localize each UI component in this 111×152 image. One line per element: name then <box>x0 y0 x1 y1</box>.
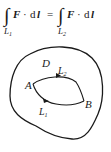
lhs-differential: d <box>30 8 36 20</box>
path-l2 <box>33 77 84 101</box>
lhs-subscript: L1 <box>3 26 12 37</box>
equals-sign: = <box>47 8 53 20</box>
rhs-vector-f: F <box>66 8 75 20</box>
region-label-d: D <box>41 57 50 69</box>
integral-sign-rhs: ∫ <box>56 4 65 28</box>
lhs-vector-f: F <box>12 8 21 20</box>
rhs-differential: d <box>84 8 90 20</box>
path-label-l2: L2 <box>57 65 67 77</box>
integral-sign-lhs: ∫ <box>2 4 11 28</box>
rhs-vector-l: l <box>91 8 95 20</box>
path-label-l1: L1 <box>38 106 48 118</box>
arrow-l1-icon <box>43 99 49 104</box>
path-independence-formula: ∫ L1 F · d l = ∫ L2 F · d l <box>0 0 111 40</box>
rhs-subscript: L2 <box>57 26 66 37</box>
lhs-dot: · <box>23 8 27 20</box>
path-l1 <box>33 84 84 105</box>
region-diagram: D A B L2 L1 <box>0 40 111 152</box>
point-label-a: A <box>24 79 32 91</box>
rhs-dot: · <box>77 8 81 20</box>
lhs-vector-l: l <box>37 8 41 20</box>
point-label-b: B <box>85 98 92 110</box>
region-boundary <box>10 47 103 139</box>
